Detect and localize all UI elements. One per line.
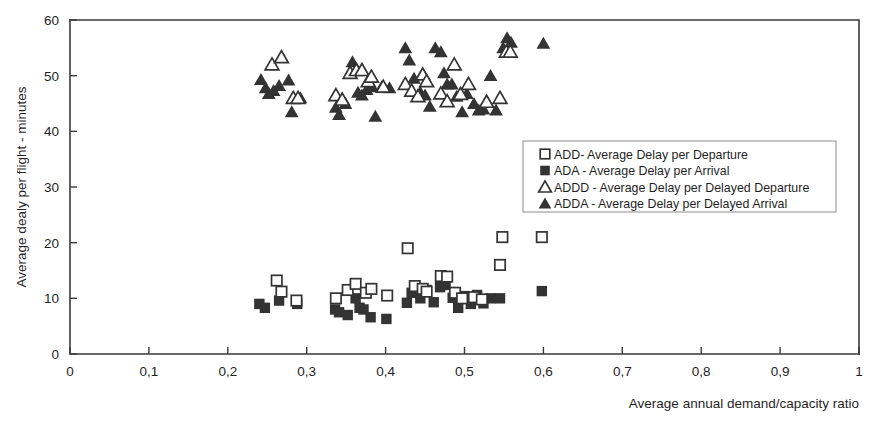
chart-canvas: 0102030405060Average dealy per flight - …	[0, 0, 883, 432]
open-square-marker	[291, 295, 301, 305]
y-tick-label: 60	[44, 13, 59, 28]
open-square-marker	[272, 275, 282, 285]
scatter-chart: 0102030405060Average dealy per flight - …	[0, 0, 883, 432]
open-square-marker	[495, 260, 505, 270]
open-square-marker	[350, 279, 360, 289]
legend-item-3[interactable]: ADDA - Average Delay per Delayed Arrival	[539, 197, 788, 211]
filled-square-marker	[495, 293, 505, 303]
y-tick-label: 40	[44, 124, 59, 139]
x-axis: 00,10,20,30,40,50,60,70,80,91Average ann…	[66, 347, 863, 411]
filled-square-marker	[429, 297, 439, 307]
filled-square-marker	[381, 314, 391, 324]
filled-triangle-marker	[455, 105, 469, 117]
y-axis-title: Average dealy per flight - minutes	[14, 86, 29, 287]
open-square-marker	[457, 293, 467, 303]
filled-square-marker	[365, 312, 375, 322]
filled-square-marker	[540, 166, 550, 176]
open-square-marker	[540, 149, 550, 159]
x-tick-label: 0,2	[218, 364, 237, 379]
open-square-marker	[497, 232, 507, 242]
open-square-marker	[442, 271, 452, 281]
x-tick-label: 0,9	[771, 364, 790, 379]
legend-item-label: ADDA - Average Delay per Delayed Arrival	[554, 197, 787, 211]
y-tick-label: 30	[44, 180, 59, 195]
filled-square-marker	[537, 286, 547, 296]
filled-triangle-marker	[537, 37, 551, 49]
x-tick-label: 0,5	[455, 364, 474, 379]
x-tick-label: 0,1	[140, 364, 159, 379]
y-tick-label: 20	[44, 236, 59, 251]
open-square-marker	[402, 243, 412, 253]
open-square-marker	[421, 286, 431, 296]
filled-triangle-marker	[285, 105, 299, 117]
open-square-marker	[366, 284, 376, 294]
legend-item-label: ADA - Average Delay per Arrival	[554, 164, 729, 178]
legend: ADD- Average Delay per DepartureADA - Av…	[523, 141, 836, 212]
open-square-marker	[537, 232, 547, 242]
x-tick-label: 0,8	[692, 364, 711, 379]
open-square-marker	[382, 290, 392, 300]
filled-triangle-marker	[402, 53, 416, 65]
legend-item-0[interactable]: ADD- Average Delay per Departure	[540, 148, 748, 162]
open-triangle-marker	[493, 91, 507, 103]
filled-square-marker	[402, 298, 412, 308]
open-triangle-marker	[275, 51, 289, 63]
filled-triangle-marker	[368, 110, 382, 122]
open-triangle-marker	[480, 95, 494, 107]
y-tick-label: 10	[44, 291, 59, 306]
open-square-marker	[276, 286, 286, 296]
x-tick-label: 1	[855, 364, 863, 379]
x-tick-label: 0,7	[613, 364, 632, 379]
filled-square-marker	[260, 303, 270, 313]
y-tick-label: 50	[44, 69, 59, 84]
x-tick-label: 0	[66, 364, 74, 379]
legend-item-label: ADD- Average Delay per Departure	[554, 148, 748, 162]
legend-item-2[interactable]: ADDD - Average Delay per Delayed Departu…	[539, 181, 810, 195]
x-tick-label: 0,3	[297, 364, 316, 379]
x-axis-title: Average annual demand/capacity ratio	[629, 396, 859, 411]
open-triangle-marker	[462, 77, 476, 89]
filled-triangle-marker	[398, 41, 412, 53]
legend-item-label: ADDD - Average Delay per Delayed Departu…	[554, 181, 809, 195]
filled-triangle-marker	[484, 69, 498, 81]
filled-square-marker	[343, 310, 353, 320]
x-tick-label: 0,4	[376, 364, 395, 379]
y-axis: 0102030405060Average dealy per flight - …	[14, 13, 77, 362]
open-square-marker	[477, 294, 487, 304]
legend-item-1[interactable]: ADA - Average Delay per Arrival	[540, 164, 729, 178]
y-tick-label: 0	[51, 347, 59, 362]
open-triangle-marker	[447, 58, 461, 70]
open-square-marker	[331, 293, 341, 303]
x-tick-label: 0,6	[534, 364, 553, 379]
filled-triangle-marker	[282, 74, 296, 86]
